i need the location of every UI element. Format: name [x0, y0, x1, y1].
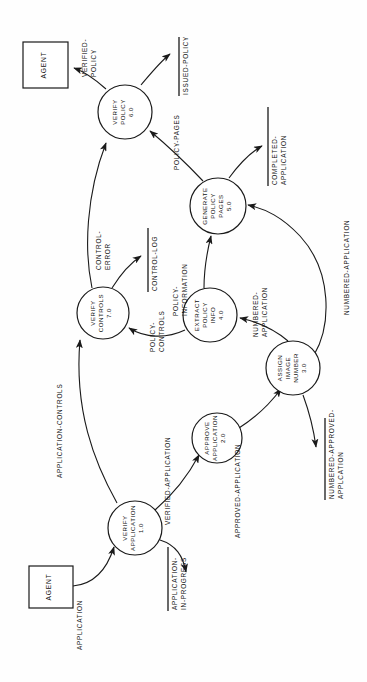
process-verify-policy-6[interactable]: VERIFY POLICY 6.0 — [98, 85, 152, 139]
flow-label-numbered-application-a-2: APPLICATION — [261, 287, 268, 337]
external-entity-agent-top: AGENT — [23, 42, 68, 88]
process-extract-policy-info-4[interactable]: EXTRACT POLICY INFO 4.0 — [183, 288, 237, 342]
numbered-approved-application-label-2: APPLCATION — [337, 451, 344, 499]
dfd-canvas: AGENT AGENT ISSUED-POLICY COMPLETED- APP… — [0, 0, 367, 682]
flow-label-application-controls: APPLICATION-CONTROLS — [56, 384, 63, 478]
process-6-line1: VERIFY — [111, 99, 118, 124]
agent-top-label: AGENT — [40, 51, 47, 78]
flow-label-policy-controls-2: CONTROLS — [158, 310, 165, 352]
flow-label-application: APPLICATION — [76, 600, 83, 650]
process-4-line3: INFO — [209, 307, 216, 324]
process-5-number: 5.0 — [225, 201, 232, 211]
flow-arrow-approved-application — [239, 389, 281, 428]
process-generate-policy-pages-5[interactable]: GENERATE POLICY PAGES 5.0 — [190, 178, 246, 234]
process-6-line2: POLICY — [119, 99, 126, 125]
issued-policy-label: ISSUED-POLICY — [182, 36, 189, 95]
data-store-completed-application: COMPLETED- APPLICATION — [268, 107, 287, 186]
flow-label-numbered-application-a-1: NUMBERED- — [252, 292, 259, 337]
process-7-line1: VERIFY — [89, 300, 96, 325]
data-flow-diagram: AGENT AGENT ISSUED-POLICY COMPLETED- APP… — [0, 0, 367, 682]
process-verify-application-1[interactable]: VERIFY APPLICATION 1.0 — [108, 501, 162, 555]
flow-arrow-control-log — [112, 256, 141, 288]
process-7-number: 7.0 — [105, 308, 112, 318]
process-4-line2: POLICY — [201, 302, 208, 328]
process-2-line1: APPROVE — [203, 421, 210, 454]
process-assign-image-number-3[interactable]: ASSIGN IMAGE NUMBER 3.0 — [266, 341, 320, 395]
flow-label-verified-application: VERIFIED-APPLICATION — [164, 437, 171, 525]
flow-arrow-numbered-approved-application — [303, 395, 316, 447]
flow-label-verified-policy-2: POLICY — [90, 49, 97, 77]
process-1-number: 1.0 — [137, 523, 144, 533]
flow-arrow-issued-policy — [141, 54, 170, 85]
flow-arrow-verified-application — [155, 455, 199, 510]
flow-arrow-policy-controls — [129, 328, 185, 336]
flow-label-numbered-application-b: NUMBERED-APPLICATION — [343, 220, 350, 316]
flow-label-policy-controls-1: POLICY- — [149, 322, 156, 352]
flow-label-control-error-2: ERROR — [104, 243, 111, 270]
application-in-progress-label-1: APPLICATION- — [171, 557, 178, 610]
external-entity-agent-bottom: AGENT — [29, 566, 73, 608]
process-1-line1: VERIFY — [121, 515, 128, 540]
process-1-line2: APPLICATION — [129, 505, 136, 551]
flow-label-control-error-1: CONTROL- — [95, 231, 102, 270]
process-4-line1: EXTRACT — [193, 299, 200, 331]
data-store-numbered-approved-application: NUMBERED-APPROVED- APPLCATION — [325, 409, 344, 500]
process-6-number: 6.0 — [127, 107, 134, 117]
data-store-application-in-progress: APPLICATION- IN-PROGRESS — [168, 547, 187, 611]
flow-label-verified-policy-1: VERIFIED- — [81, 39, 88, 77]
flow-arrow-application-controls — [79, 340, 117, 503]
flow-arrow-policy-information — [204, 236, 211, 288]
flow-label-policy-information-2: INFORMATION — [181, 263, 188, 316]
flow-arrow-completed-application — [229, 146, 262, 178]
completed-application-label-2: APPLICATION — [280, 135, 287, 185]
flow-label-policy-information-1: POLICY- — [172, 286, 179, 316]
flow-arrow-application — [73, 547, 114, 586]
data-store-issued-policy: ISSUED-POLICY — [179, 36, 189, 96]
process-5-line3: PAGES — [217, 194, 224, 217]
flow-label-approved-application: APPROVED-APPLICATION — [234, 444, 241, 538]
process-3-number: 3.0 — [300, 363, 307, 373]
completed-application-label-1: COMPLETED- — [271, 136, 278, 185]
process-4-number: 4.0 — [217, 310, 224, 320]
process-2-line2: APPLICATION — [211, 415, 218, 461]
process-3-line1: ASSIGN — [276, 355, 283, 381]
process-verify-controls-7[interactable]: VERIFY CONTROLS 7.0 — [77, 287, 129, 339]
process-3-line3: NUMBER — [292, 353, 299, 383]
data-store-control-log: CONTROL-LOG — [148, 228, 158, 292]
flow-arrow-numbered-application-to-generate — [248, 205, 326, 355]
process-7-line2: CONTROLS — [97, 294, 104, 332]
process-2-number: 2.0 — [219, 433, 226, 443]
flow-label-policy-pages: POLICY-PAGES — [173, 114, 180, 170]
numbered-approved-application-label-1: NUMBERED-APPROVED- — [328, 409, 335, 499]
control-log-label: CONTROL-LOG — [151, 236, 158, 291]
agent-bottom-label: AGENT — [45, 573, 52, 600]
application-in-progress-label-2: IN-PROGRESS — [180, 557, 187, 610]
process-5-line2: POLICY — [209, 193, 216, 219]
process-3-line2: IMAGE — [284, 357, 291, 379]
process-5-line1: GENERATE — [201, 187, 208, 224]
